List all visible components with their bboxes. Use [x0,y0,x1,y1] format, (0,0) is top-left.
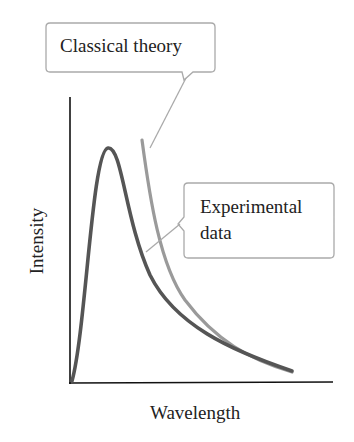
classical-theory-leader [150,78,186,148]
y-axis-label: Intensity [26,196,48,286]
classical-theory-label: Classical theory [60,35,182,57]
chart-canvas [0,0,354,442]
x-axis-label: Wavelength [150,402,240,424]
experimental-data-callout [178,183,334,258]
experimental-data-label-line1: Experimental [200,196,302,218]
experimental-data-label-line2: data [200,222,232,244]
x-axis [69,382,333,383]
